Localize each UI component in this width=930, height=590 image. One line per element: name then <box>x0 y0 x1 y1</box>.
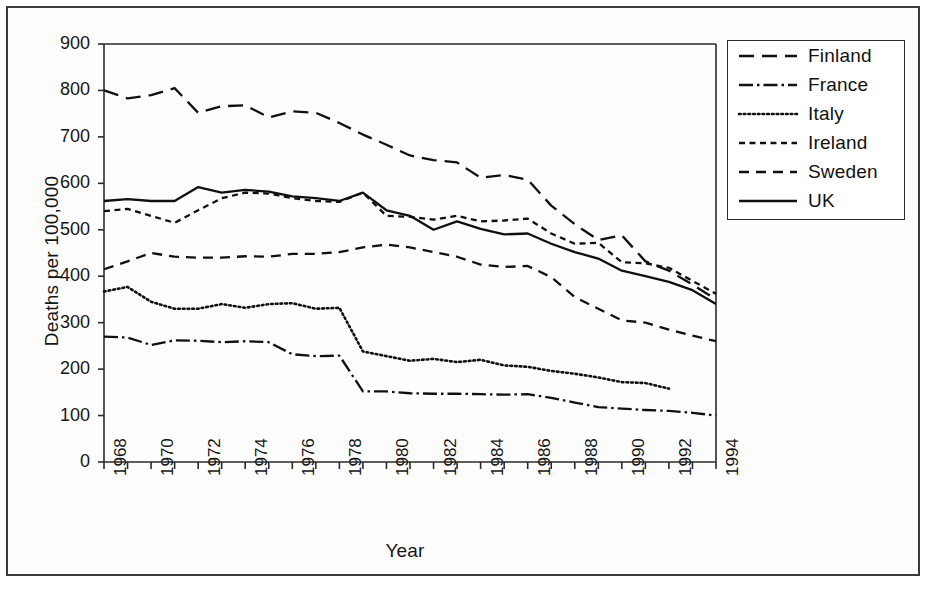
legend-item-italy[interactable]: Italy <box>728 99 904 128</box>
y-tick-label: 900 <box>42 33 90 54</box>
y-tick-label: 400 <box>42 265 90 286</box>
legend-item-sweden[interactable]: Sweden <box>728 157 904 186</box>
y-tick-label: 800 <box>42 79 90 100</box>
legend-line-swatch <box>737 78 799 92</box>
x-tick-label: 1988 <box>582 438 602 476</box>
legend-item-france[interactable]: France <box>728 70 904 99</box>
x-tick-label: 1980 <box>393 438 413 476</box>
series-line-sweden <box>104 245 716 342</box>
x-tick-label: 1968 <box>111 438 131 476</box>
legend-item-label: Ireland <box>808 132 868 154</box>
x-tick-label: 1992 <box>676 438 696 476</box>
series-line-france <box>104 337 716 416</box>
x-tick-label: 1986 <box>535 438 555 476</box>
y-tick-label: 600 <box>42 172 90 193</box>
x-tick-label: 1972 <box>205 438 225 476</box>
legend-item-uk[interactable]: UK <box>728 186 904 215</box>
x-tick-label: 1994 <box>723 438 743 476</box>
y-tick-label: 0 <box>42 451 90 472</box>
legend-item-label: Italy <box>808 103 844 125</box>
legend-swatch-icon <box>737 194 799 208</box>
legend-item-finland[interactable]: Finland <box>728 41 904 70</box>
legend-item-ireland[interactable]: Ireland <box>728 128 904 157</box>
y-axis-title: Deaths per 100,000 <box>41 131 63 391</box>
legend-swatch-icon <box>737 49 799 63</box>
x-tick-label: 1982 <box>441 438 461 476</box>
y-tick-label: 700 <box>42 126 90 147</box>
legend-item-label: France <box>808 74 868 96</box>
legend-item-label: Sweden <box>808 161 878 183</box>
x-tick-label: 1974 <box>252 438 272 476</box>
legend-swatch-icon <box>737 136 799 150</box>
x-tick-label: 1970 <box>158 438 178 476</box>
legend-swatch-icon <box>737 78 799 92</box>
series-line-finland <box>104 88 716 299</box>
legend-line-swatch <box>737 107 799 121</box>
legend-item-label: UK <box>808 190 835 212</box>
y-tick-label: 500 <box>42 219 90 240</box>
y-tick-label: 300 <box>42 312 90 333</box>
legend-swatch-icon <box>737 165 799 179</box>
series-line-uk <box>104 187 716 304</box>
y-tick-label: 200 <box>42 358 90 379</box>
chart-page: Deaths per 100,000 Year 0100200300400500… <box>0 0 930 590</box>
x-axis-title: Year <box>330 540 480 562</box>
legend-line-swatch <box>737 165 799 179</box>
x-tick-label: 1976 <box>299 438 319 476</box>
x-tick-label: 1984 <box>488 438 508 476</box>
series-line-ireland <box>104 193 716 294</box>
legend-line-swatch <box>737 136 799 150</box>
legend: FinlandFranceItalyIrelandSwedenUK <box>727 40 905 220</box>
legend-swatch-icon <box>737 107 799 121</box>
x-tick-label: 1978 <box>346 438 366 476</box>
x-tick-label: 1990 <box>629 438 649 476</box>
legend-item-label: Finland <box>808 45 872 67</box>
legend-line-swatch <box>737 49 799 63</box>
data-series-group <box>104 88 716 415</box>
legend-line-swatch <box>737 194 799 208</box>
y-tick-label: 100 <box>42 405 90 426</box>
